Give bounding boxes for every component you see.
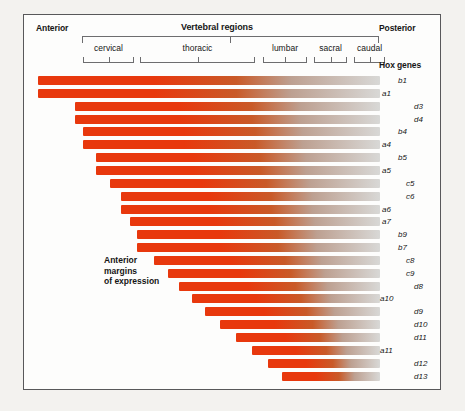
expression-bar-b7 xyxy=(137,243,380,252)
expression-row: d3 xyxy=(24,102,440,111)
expression-row: a1 xyxy=(24,89,440,98)
expression-bar-c8 xyxy=(154,256,380,265)
gene-label-a6: a6 xyxy=(382,205,391,214)
expression-row: d13 xyxy=(24,372,440,381)
gene-label-d9: d9 xyxy=(414,307,423,316)
expression-row: d12 xyxy=(24,359,440,368)
anterior-margins-annotation: Anteriormarginsof expression xyxy=(104,255,159,287)
annotation-line-2: margins xyxy=(104,266,159,277)
expression-bar-d9 xyxy=(205,307,380,316)
gene-label-a1: a1 xyxy=(382,89,391,98)
expression-bar-d8 xyxy=(179,282,380,291)
expression-bar-b1 xyxy=(38,76,380,85)
expression-row: d8 xyxy=(24,282,440,291)
expression-bar-c9 xyxy=(168,269,380,278)
expression-row: c9 xyxy=(24,269,440,278)
gene-label-c8: c8 xyxy=(406,256,414,265)
expression-bar-a11 xyxy=(252,346,380,355)
gene-label-b4: b4 xyxy=(398,127,407,136)
expression-row: a11 xyxy=(24,346,440,355)
gene-label-d11: d11 xyxy=(414,333,427,342)
gene-label-a5: a5 xyxy=(382,166,391,175)
expression-bar-c6 xyxy=(121,192,380,201)
expression-row: d9 xyxy=(24,307,440,316)
expression-bar-b9 xyxy=(137,230,380,239)
expression-bar-a5 xyxy=(96,166,380,175)
expression-bar-d3 xyxy=(75,102,380,111)
gene-label-b7: b7 xyxy=(398,243,407,252)
gene-label-a11: a11 xyxy=(380,346,393,355)
gene-label-a10: a10 xyxy=(380,294,393,303)
expression-bar-d13 xyxy=(282,372,380,381)
expression-row: c5 xyxy=(24,179,440,188)
gene-label-c6: c6 xyxy=(406,192,414,201)
annotation-line-3: of expression xyxy=(104,276,159,287)
gene-label-b9: b9 xyxy=(398,230,407,239)
expression-bar-d4 xyxy=(75,115,380,124)
expression-bar-a10 xyxy=(192,294,380,303)
gene-label-b1: b1 xyxy=(398,76,407,85)
expression-bar-b5 xyxy=(96,153,380,162)
expression-bar-b4 xyxy=(83,127,380,136)
expression-row: b1 xyxy=(24,76,440,85)
expression-bar-a7 xyxy=(130,217,380,226)
expression-row: c8 xyxy=(24,256,440,265)
expression-row: b4 xyxy=(24,127,440,136)
gene-label-d12: d12 xyxy=(414,359,427,368)
expression-bar-a1 xyxy=(38,89,380,98)
gene-label-d3: d3 xyxy=(414,102,423,111)
gene-label-d8: d8 xyxy=(414,282,423,291)
expression-row: c6 xyxy=(24,192,440,201)
expression-bar-a6 xyxy=(121,205,380,214)
gene-label-b5: b5 xyxy=(398,153,407,162)
expression-row: b7 xyxy=(24,243,440,252)
expression-row: d11 xyxy=(24,333,440,342)
expression-row: b5 xyxy=(24,153,440,162)
hox-expression-figure: Anterior Posterior Vertebral regions cer… xyxy=(23,14,441,390)
expression-bar-d10 xyxy=(220,320,380,329)
annotation-line-1: Anterior xyxy=(104,255,159,266)
expression-bar-a4 xyxy=(83,140,380,149)
expression-row: a7 xyxy=(24,217,440,226)
expression-row: a10 xyxy=(24,294,440,303)
expression-row: d4 xyxy=(24,115,440,124)
expression-row: b9 xyxy=(24,230,440,239)
gene-label-d4: d4 xyxy=(414,115,423,124)
expression-row: a5 xyxy=(24,166,440,175)
gene-label-d10: d10 xyxy=(414,320,427,329)
expression-bar-d11 xyxy=(236,333,380,342)
expression-row: a4 xyxy=(24,140,440,149)
expression-bar-chart: b1a1d3d4b4a4b5a5c5c6a6a7b9b7c8c9d8a10d9d… xyxy=(24,15,440,389)
gene-label-a4: a4 xyxy=(382,140,391,149)
gene-label-c9: c9 xyxy=(406,269,414,278)
gene-label-d13: d13 xyxy=(414,372,427,381)
gene-label-c5: c5 xyxy=(406,179,414,188)
expression-bar-d12 xyxy=(268,359,380,368)
expression-row: a6 xyxy=(24,205,440,214)
gene-label-a7: a7 xyxy=(382,217,391,226)
expression-row: d10 xyxy=(24,320,440,329)
expression-bar-c5 xyxy=(110,179,380,188)
